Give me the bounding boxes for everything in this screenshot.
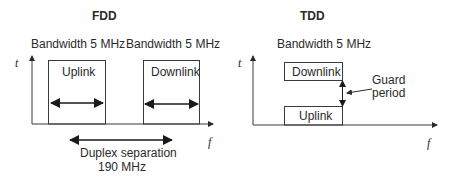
fdd-downlink-label: Downlink [151,66,200,78]
guard-period-label-line2: period [372,87,405,99]
duplex-separation-label-line1: Duplex separation [80,147,164,159]
fdd-uplink-bandwidth-label: Bandwidth 5 MHz [31,38,125,50]
tdd-title: TDD [300,10,325,22]
tdd-downlink-label: Downlink [292,66,341,78]
fdd-t-axis-label: t [15,57,18,69]
tdd-t-axis-label: t [238,57,241,69]
guard-period-label-line1: Guard [372,74,405,86]
fdd-f-axis-label: f [208,136,211,148]
fdd-uplink-label: Uplink [62,66,95,78]
tdd-uplink-label: Uplink [299,110,332,122]
tdd-f-axis-label: f [427,137,430,149]
fdd-downlink-bandwidth-label: Bandwidth 5 MHz [126,38,220,50]
tdd-bandwidth-label: Bandwidth 5 MHz [277,38,371,50]
fdd-title: FDD [92,10,117,22]
guard-period-pointer [347,89,372,93]
tdd-axes [253,56,437,125]
duplex-separation-label-line2: 190 MHz [80,161,164,173]
